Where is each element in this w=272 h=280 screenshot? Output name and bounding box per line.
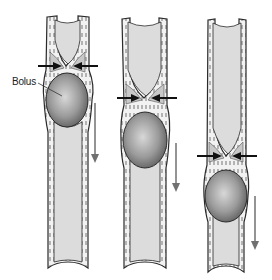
lumen-lower <box>130 160 160 262</box>
esophagus-stage-1 <box>38 16 99 268</box>
peristalsis-diagram <box>0 0 272 280</box>
lumen-lower <box>54 122 82 262</box>
motion-arrow-down-3 <box>251 196 259 250</box>
motion-arrow-down-2 <box>172 143 180 192</box>
lumen-upper <box>213 23 241 154</box>
esophagus-stage-2 <box>117 18 180 268</box>
bolus <box>205 170 247 222</box>
esophagus-stage-3 <box>197 19 259 272</box>
bolus <box>46 73 88 127</box>
bolus-label: Bolus <box>12 76 36 87</box>
bolus <box>123 112 167 168</box>
motion-arrow-down-1 <box>91 103 99 163</box>
